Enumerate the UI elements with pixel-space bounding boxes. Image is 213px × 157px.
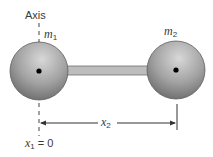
connecting-rod xyxy=(64,66,150,75)
mass-1-sphere xyxy=(10,42,68,100)
two-mass-rod-diagram: Axis m1 m2 x2 x1 = 0 xyxy=(0,0,213,157)
center-of-mass-dot xyxy=(36,68,41,73)
mass-2-label: m2 xyxy=(164,24,178,39)
mass-1-label: m1 xyxy=(44,27,58,42)
center-of-mass-dot xyxy=(173,67,178,72)
mass-2-sphere xyxy=(147,41,205,99)
arrowhead-left-icon xyxy=(40,121,46,126)
distance-x2-label: x2 xyxy=(100,115,111,130)
arrowhead-right-icon xyxy=(170,121,176,126)
origin-x1-label: x1 = 0 xyxy=(24,136,53,151)
axis-label: Axis xyxy=(25,9,46,21)
